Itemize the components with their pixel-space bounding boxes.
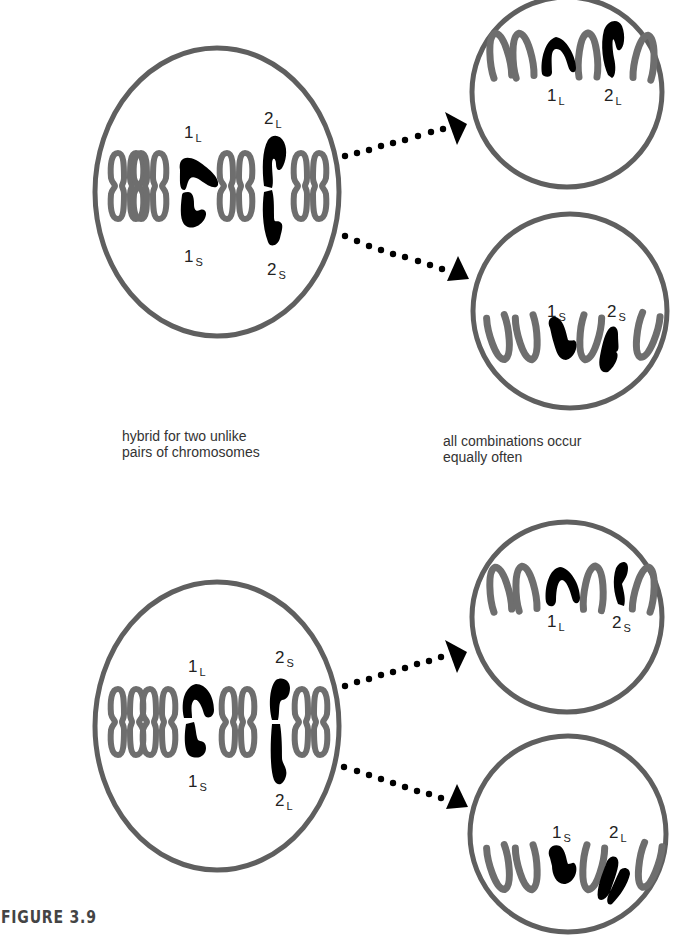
label-1L: 1L [188, 657, 206, 678]
label-1S: 1S [184, 247, 203, 268]
gray-chromosome [486, 314, 514, 361]
label-1L: 1L [547, 86, 565, 107]
chromosome-2L [271, 724, 287, 784]
caption-left: hybrid for two unlike pairs of chromosom… [122, 428, 260, 460]
label-1S: 1S [547, 302, 566, 323]
label-1L: 1L [547, 612, 565, 633]
daughter-cell-lower [473, 214, 667, 408]
dotted-arrow-down [342, 233, 469, 281]
chromosome-1S [181, 192, 206, 228]
chromosome-2S [263, 190, 283, 245]
label-2L: 2L [604, 86, 622, 107]
gray-chromosome [515, 845, 542, 892]
label-1L: 1L [184, 123, 202, 144]
figure-diagram: 1L 1S 2L 2S 1L 2L 1S [0, 0, 676, 944]
chromosome-2L [263, 136, 286, 188]
chromosome-1S [549, 317, 577, 360]
caption-left-line2: pairs of chromosomes [122, 444, 260, 460]
chromosome-2S [614, 562, 628, 606]
chromosome-1S [185, 722, 206, 758]
top-panel: 1L 1S 2L 2S 1L 2L 1S [95, 0, 667, 408]
label-2L: 2L [609, 823, 627, 844]
gray-chromosome [111, 689, 144, 755]
label-2S: 2S [267, 260, 286, 281]
gray-chromosome [576, 315, 603, 362]
chromosome-2S [270, 678, 290, 720]
gray-chromosome [583, 565, 605, 610]
gray-chromosome [632, 34, 657, 80]
caption-right: all combinations occur equally often [443, 433, 582, 465]
dotted-arrow-up [342, 112, 467, 159]
gray-chromosome [222, 689, 255, 755]
chromosome-1L [546, 567, 580, 606]
label-2S: 2S [275, 648, 294, 669]
gray-chromosome [220, 153, 253, 219]
dotted-arrow-down [341, 764, 468, 809]
gray-chromosome [294, 153, 327, 219]
chromosome-1L [180, 158, 219, 190]
gray-chromosome [486, 844, 514, 891]
gray-chromosome [509, 32, 534, 78]
dotted-arrow-up [342, 640, 467, 689]
figure-label: FIGURE 3.9 [1, 906, 97, 927]
gray-chromosome [578, 33, 597, 77]
bottom-panel: 1L 1S 2S 2L 1L 2S 1S 2L [95, 522, 666, 932]
gray-chromosome [295, 689, 328, 755]
gray-chromosome [515, 315, 542, 362]
gray-chromosome [512, 565, 537, 611]
daughter-cell-upper [472, 522, 662, 712]
label-1S: 1S [188, 772, 207, 793]
label-2L: 2L [275, 791, 293, 812]
chromosome-2L [602, 21, 624, 78]
chromosome-1L [542, 37, 576, 77]
label-1S: 1S [552, 823, 571, 844]
gray-chromosome [486, 32, 513, 79]
gray-chromosome [134, 153, 167, 219]
gray-chromosome [633, 842, 662, 889]
label-2S: 2S [612, 613, 631, 634]
chromosome-1L [183, 684, 214, 718]
label-2S: 2S [607, 302, 626, 323]
caption-right-line1: all combinations occur [443, 433, 582, 449]
gray-chromosome [632, 566, 659, 613]
gray-chromosome [143, 689, 176, 755]
gray-chromosome [486, 566, 513, 613]
caption-left-line1: hybrid for two unlike [122, 428, 260, 444]
daughter-cell-upper [472, 0, 662, 187]
caption-right-line2: equally often [443, 449, 582, 465]
chromosome-1S [549, 845, 577, 884]
label-2L: 2L [264, 109, 282, 130]
